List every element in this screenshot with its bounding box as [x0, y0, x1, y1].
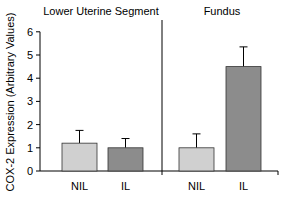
panel-title: Fundus	[204, 5, 241, 17]
bar-il	[226, 67, 261, 171]
x-tick-label: IL	[121, 180, 130, 192]
bar-chart: 0123456COX-2 Expression (Arbitrary Value…	[0, 0, 293, 199]
y-tick-label: 2	[27, 119, 33, 131]
bar-nil	[62, 143, 97, 171]
y-tick-label: 6	[27, 26, 33, 38]
y-tick-label: 1	[27, 142, 33, 154]
y-tick-label: 4	[27, 72, 33, 84]
y-tick-label: 5	[27, 49, 33, 61]
y-tick-label: 3	[27, 95, 33, 107]
x-tick-label: IL	[239, 180, 248, 192]
bar-il	[108, 148, 143, 171]
x-tick-label: NIL	[188, 180, 205, 192]
bar-nil	[179, 148, 214, 171]
panel-title: Lower Uterine Segment	[43, 5, 159, 17]
y-tick-label: 0	[27, 165, 33, 177]
x-tick-label: NIL	[71, 180, 88, 192]
y-axis-label: COX-2 Expression (Arbitrary Values)	[4, 13, 16, 192]
chart: 0123456COX-2 Expression (Arbitrary Value…	[0, 0, 293, 199]
